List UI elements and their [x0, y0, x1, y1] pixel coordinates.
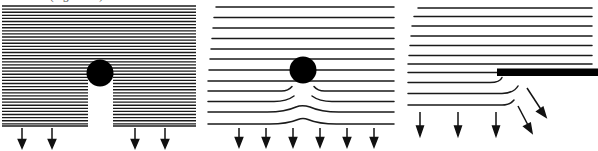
left-circular-obstacle	[87, 60, 114, 87]
flow-line-curl	[408, 100, 514, 105]
left-panel-canvas	[0, 0, 198, 151]
arrow-down	[48, 128, 55, 148]
arrow-down	[316, 128, 323, 147]
arrow-down	[235, 128, 242, 147]
right-flow-arrows-diagonal	[518, 88, 546, 133]
flow-line-deflected	[208, 119, 394, 125]
figure-root: resistance (Figure 4.4).	[0, 0, 598, 151]
arrow-down	[289, 128, 296, 147]
middle-panel-canvas	[206, 0, 402, 151]
arrow-diagonal	[527, 88, 546, 117]
middle-flow-arrows	[235, 128, 377, 147]
arrow-down	[455, 112, 462, 136]
flow-line-deflected	[208, 87, 394, 92]
flow-line-curl	[408, 78, 502, 83]
right-panel-canvas	[406, 0, 598, 151]
arrow-down	[343, 128, 350, 147]
arrow-down	[262, 128, 269, 147]
arrow-down	[131, 128, 138, 148]
arrow-down	[18, 128, 25, 148]
middle-circular-obstacle	[290, 57, 317, 84]
arrow-down	[417, 112, 424, 136]
arrow-down	[370, 128, 377, 147]
arrow-down	[161, 128, 168, 148]
panel-left-dense-hatch	[0, 0, 198, 151]
panel-right-barrier-plate	[406, 0, 598, 151]
arrow-diagonal	[518, 106, 532, 133]
right-flow-lines	[408, 8, 592, 105]
flow-line-deflected	[208, 96, 394, 102]
flow-line-curl	[408, 86, 518, 94]
panel-middle-sparse-lines	[206, 0, 402, 151]
right-barrier-plate	[497, 69, 598, 77]
left-flow-arrows	[18, 128, 168, 148]
arrow-down	[493, 112, 500, 136]
flow-line-deflected	[208, 106, 394, 112]
right-flow-arrows-vertical	[417, 112, 500, 136]
